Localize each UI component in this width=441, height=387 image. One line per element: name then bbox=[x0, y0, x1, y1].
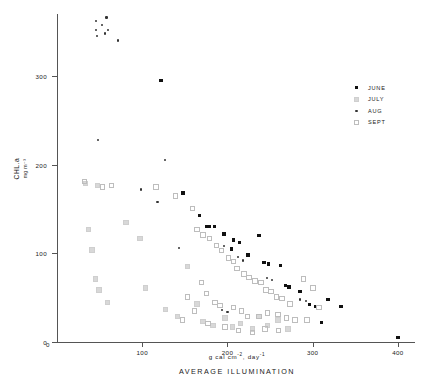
data-point-aug bbox=[266, 277, 268, 279]
data-point-sept bbox=[82, 179, 87, 184]
data-point-sept bbox=[310, 285, 315, 290]
data-point-june bbox=[213, 225, 216, 228]
data-point-sept bbox=[231, 305, 236, 310]
data-point-june bbox=[238, 241, 241, 244]
data-point-sept bbox=[109, 183, 114, 188]
data-point-aug bbox=[105, 16, 107, 18]
y-tick-100 bbox=[52, 253, 57, 254]
data-point-aug bbox=[305, 300, 307, 302]
y-tick-label-300: 300 bbox=[21, 73, 47, 80]
x-tick-100 bbox=[142, 342, 143, 347]
data-point-july bbox=[86, 227, 91, 232]
x-tick-200 bbox=[227, 342, 228, 347]
legend-label-june: JUNE bbox=[368, 85, 386, 91]
x-axis-title: AVERAGE ILLUMINATION bbox=[137, 367, 337, 376]
data-point-june bbox=[287, 285, 290, 288]
data-point-sept bbox=[192, 308, 197, 313]
data-point-sept bbox=[275, 312, 280, 317]
data-point-june bbox=[257, 234, 260, 237]
x-tick-400 bbox=[398, 342, 399, 347]
data-point-aug bbox=[95, 29, 97, 31]
data-point-july bbox=[185, 264, 190, 269]
data-point-sept bbox=[239, 308, 244, 313]
data-point-sept bbox=[252, 278, 257, 283]
data-point-july bbox=[275, 317, 280, 322]
data-point-aug bbox=[223, 245, 225, 247]
legend-label-aug: AUG bbox=[368, 108, 382, 114]
data-point-sept bbox=[222, 324, 227, 329]
legend-item-sept[interactable]: SEPT bbox=[352, 117, 386, 129]
data-point-sept bbox=[258, 280, 263, 285]
data-point-june bbox=[222, 232, 225, 235]
data-point-june bbox=[326, 298, 329, 301]
data-point-june bbox=[181, 191, 184, 194]
data-point-july bbox=[163, 307, 168, 312]
data-point-sept bbox=[180, 317, 185, 322]
y-tick-200 bbox=[52, 165, 57, 166]
data-point-sept bbox=[274, 294, 279, 299]
legend-label-july: JULY bbox=[368, 96, 384, 102]
data-point-sept bbox=[236, 328, 241, 333]
data-point-july bbox=[210, 323, 215, 328]
data-point-sept bbox=[100, 184, 105, 189]
data-point-aug bbox=[178, 247, 180, 249]
legend-item-aug[interactable]: AUG bbox=[352, 105, 386, 117]
legend-marker-july-icon bbox=[352, 97, 361, 102]
data-point-aug bbox=[237, 256, 239, 258]
x-tick-label-0: 0 bbox=[33, 341, 63, 348]
data-point-aug bbox=[104, 32, 106, 34]
data-point-july bbox=[285, 326, 290, 331]
data-point-sept bbox=[279, 296, 284, 301]
data-point-june bbox=[230, 247, 233, 250]
legend-item-july[interactable]: JULY bbox=[352, 94, 386, 106]
data-point-june bbox=[246, 253, 249, 256]
legend-marker-aug-icon bbox=[352, 110, 361, 112]
y-axis-label: CHL.a mg m⁻³ bbox=[12, 139, 29, 199]
data-point-sept bbox=[199, 280, 204, 285]
data-point-july bbox=[230, 324, 235, 329]
data-point-july bbox=[143, 285, 148, 290]
x-axis-units-prefix: g cal cm bbox=[209, 353, 238, 360]
data-point-sept bbox=[204, 291, 209, 296]
x-tick-300 bbox=[313, 342, 314, 347]
y-axis-label-text: CHL.a bbox=[13, 158, 20, 180]
data-point-sept bbox=[200, 232, 205, 237]
data-point-sept bbox=[284, 315, 289, 320]
data-point-aug bbox=[242, 259, 244, 261]
data-point-sept bbox=[250, 330, 255, 335]
data-point-sept bbox=[173, 193, 178, 198]
data-point-aug bbox=[271, 279, 273, 281]
data-point-sept bbox=[246, 275, 251, 280]
legend-item-june[interactable]: JUNE bbox=[352, 82, 386, 94]
data-point-aug bbox=[299, 298, 301, 300]
data-point-sept bbox=[205, 321, 210, 326]
data-point-aug bbox=[117, 39, 119, 41]
y-tick-label-100: 100 bbox=[21, 250, 47, 257]
data-point-june bbox=[339, 305, 342, 308]
data-point-june bbox=[308, 303, 311, 306]
x-axis-units-exponent-2: -1 bbox=[260, 352, 266, 357]
y-axis-units: mg m⁻³ bbox=[22, 139, 30, 199]
data-point-sept bbox=[304, 317, 309, 322]
data-point-july bbox=[93, 276, 98, 281]
data-point-july bbox=[96, 287, 101, 292]
data-point-aug bbox=[107, 29, 109, 31]
data-point-sept bbox=[194, 227, 199, 232]
legend: JUNEJULYAUGSEPT bbox=[352, 82, 386, 128]
data-point-june bbox=[396, 336, 399, 339]
data-point-june bbox=[159, 79, 162, 82]
x-axis-units-middle: , day bbox=[243, 353, 260, 360]
data-point-july bbox=[123, 220, 128, 225]
data-point-aug bbox=[156, 201, 158, 203]
x-axis-line bbox=[57, 342, 415, 343]
data-point-aug bbox=[226, 311, 228, 313]
data-point-sept bbox=[153, 184, 158, 189]
data-point-sept bbox=[245, 314, 250, 319]
data-point-july bbox=[137, 236, 142, 241]
data-point-aug bbox=[221, 309, 223, 311]
data-point-sept bbox=[287, 301, 292, 306]
data-point-aug bbox=[101, 24, 103, 26]
data-point-june bbox=[320, 321, 323, 324]
data-point-june bbox=[279, 264, 282, 267]
data-point-sept bbox=[256, 314, 261, 319]
